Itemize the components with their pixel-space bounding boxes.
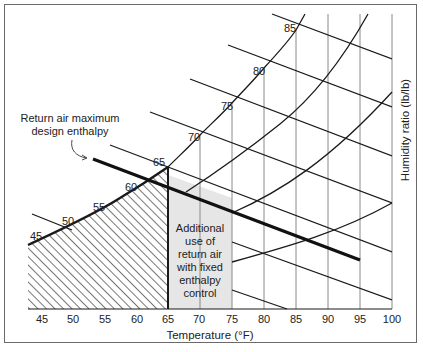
svg-text:control: control	[183, 287, 216, 299]
svg-text:90: 90	[322, 313, 334, 325]
svg-text:return air: return air	[178, 248, 222, 260]
svg-text:70: 70	[193, 313, 205, 325]
svg-text:65: 65	[153, 156, 165, 168]
hatched-economizer-region	[28, 167, 168, 309]
svg-text:95: 95	[354, 313, 366, 325]
svg-text:75: 75	[221, 100, 233, 112]
svg-text:70: 70	[188, 131, 200, 143]
svg-text:55: 55	[93, 201, 105, 213]
svg-text:with fixed: with fixed	[176, 261, 223, 273]
x-axis-label: Temperature (°F)	[166, 329, 253, 341]
svg-text:80: 80	[258, 313, 270, 325]
svg-text:60: 60	[131, 313, 143, 325]
svg-text:Additional: Additional	[176, 222, 224, 234]
svg-text:85: 85	[284, 22, 296, 34]
x-tick-labels: 45 50 55 60 65 70 75 80 85 90 95 100	[36, 313, 401, 325]
svg-text:100: 100	[383, 313, 401, 325]
svg-text:75: 75	[226, 313, 238, 325]
annotation-arrow-icon	[72, 140, 86, 158]
svg-text:50: 50	[62, 215, 74, 227]
svg-text:85: 85	[290, 313, 302, 325]
svg-text:50: 50	[67, 313, 79, 325]
svg-text:45: 45	[36, 313, 48, 325]
svg-text:design enthalpy: design enthalpy	[31, 125, 109, 137]
svg-text:80: 80	[253, 65, 265, 77]
svg-text:use of: use of	[185, 235, 216, 247]
psychrometric-chart: 45 50 55 60 65 70 75 80 85 45 50 55 60 6…	[0, 0, 423, 352]
svg-text:60: 60	[125, 181, 137, 193]
svg-text:Return air maximum: Return air maximum	[20, 112, 119, 124]
svg-text:enthalpy: enthalpy	[179, 274, 221, 286]
svg-text:55: 55	[99, 313, 111, 325]
y-axis-label: Humidity ratio (lb/lb)	[399, 79, 411, 181]
annotation-max-enthalpy: Return air maximum design enthalpy	[20, 112, 119, 137]
svg-text:65: 65	[162, 313, 174, 325]
svg-text:45: 45	[30, 230, 42, 242]
